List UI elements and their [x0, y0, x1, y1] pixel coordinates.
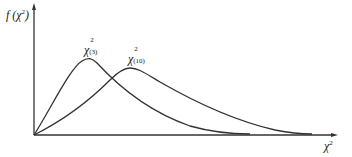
x-axis-label: χ2 [324, 140, 333, 152]
y-axis-label: f (χ2) [6, 9, 29, 21]
chi-square-chart: f (χ2) χ 2 (3) χ 2 (10) χ2 [0, 0, 352, 157]
curve-chi2-3 [34, 59, 250, 135]
chart-plot [0, 0, 352, 157]
x-axis-arrow-icon [331, 133, 338, 137]
curve-label-chi2-10: χ 2 (10) [128, 51, 149, 65]
y-axis-arrow-icon [32, 3, 36, 10]
curve-label-chi2-3: χ 2 (3) [84, 42, 101, 56]
curve-chi2-10 [34, 68, 312, 135]
